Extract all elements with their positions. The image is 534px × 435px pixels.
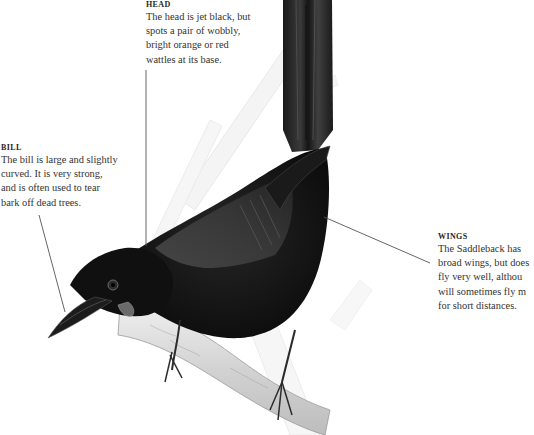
callout-wings-heading: WINGS bbox=[438, 232, 534, 242]
leader-line-wings bbox=[324, 217, 430, 263]
callout-wings: WINGS The Saddleback has broad wings, bu… bbox=[438, 232, 534, 313]
callout-wings-line: The Saddleback has bbox=[438, 242, 534, 256]
leader-line-bill bbox=[39, 215, 65, 312]
callout-head-line: wattles at its base. bbox=[146, 53, 286, 67]
callout-head-line: spots a pair of wobbly, bbox=[146, 24, 286, 38]
callout-head-heading: HEAD bbox=[146, 0, 286, 10]
callout-head: HEAD The head is jet black, but spots a … bbox=[146, 0, 286, 67]
callout-head-body: The head is jet black, but spots a pair … bbox=[146, 10, 286, 67]
callout-wings-line: for short distances. bbox=[438, 299, 534, 313]
callout-wings-line: will sometimes fly m bbox=[438, 285, 534, 299]
callout-bill-line: The bill is large and slightly bbox=[1, 153, 169, 167]
callout-bill-line: and is often used to tear bbox=[1, 181, 169, 195]
callout-wings-body: The Saddleback has broad wings, but does… bbox=[438, 242, 534, 313]
callout-bill: BILL The bill is large and slightly curv… bbox=[1, 143, 169, 210]
callout-bill-heading: BILL bbox=[1, 143, 169, 153]
callout-head-line: bright orange or red bbox=[146, 38, 286, 52]
callout-bill-line: curved. It is very strong, bbox=[1, 167, 169, 181]
callout-bill-line: bark off dead trees. bbox=[1, 196, 169, 210]
callout-wings-line: fly very well, althou bbox=[438, 270, 534, 284]
callout-wings-line: broad wings, but does bbox=[438, 256, 534, 270]
tail bbox=[283, 0, 333, 152]
callout-bill-body: The bill is large and slightly curved. I… bbox=[1, 153, 169, 210]
callout-head-line: The head is jet black, but bbox=[146, 10, 286, 24]
